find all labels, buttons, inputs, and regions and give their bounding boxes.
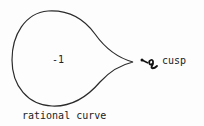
cusp-arrow-icon (149, 60, 157, 68)
teardrop-curve (12, 11, 133, 106)
cusp-label: cusp (162, 55, 186, 66)
caption-label: rational curve (22, 110, 106, 121)
diagram-canvas: -1 cusp rational curve (0, 0, 204, 126)
arrow-shaft (142, 60, 148, 63)
curve-value-label: -1 (52, 54, 64, 65)
